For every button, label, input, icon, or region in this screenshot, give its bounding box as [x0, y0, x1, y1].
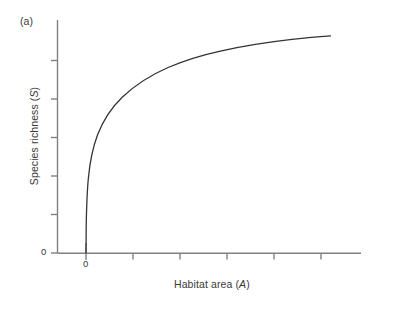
y-axis-title: Species richness (S) — [28, 66, 40, 206]
x-axis-title: Habitat area (A) — [174, 278, 250, 290]
y-axis-origin-label: 0 — [41, 246, 46, 257]
figure-root: (a) Species richness (S) Habitat area (A… — [0, 0, 394, 310]
y-axis-title-suffix: ) — [28, 87, 40, 91]
y-axis-ticks — [51, 61, 58, 254]
y-axis-title-text: Species richness ( — [28, 98, 40, 186]
x-axis-origin-label: 0 — [83, 258, 88, 269]
x-axis-title-text: Habitat area ( — [174, 278, 239, 290]
x-axis-title-suffix: ) — [246, 278, 250, 290]
panel-label: (a) — [20, 15, 33, 27]
x-axis-ticks — [86, 243, 321, 260]
y-axis-title-symbol: S — [28, 90, 40, 97]
species-area-curve — [86, 36, 331, 253]
species-area-plot — [0, 0, 394, 310]
